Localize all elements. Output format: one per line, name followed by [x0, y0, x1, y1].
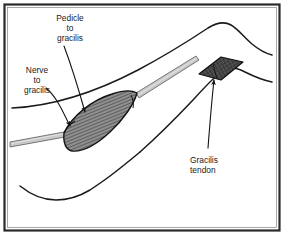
label-nerve-line2: to: [34, 75, 41, 85]
label-pedicle-line2: to: [67, 23, 74, 33]
label-tendon-line2: tendon: [190, 165, 216, 175]
label-pedicle-line3: gracilis: [57, 33, 83, 43]
label-pedicle-line1: Pedicle: [56, 13, 84, 23]
label-tendon-line1: Gracilis: [190, 155, 218, 165]
label-nerve-line3: gracilis: [24, 85, 50, 95]
label-gracilis-tendon: Gracilis tendon: [190, 155, 218, 175]
illustration-figure: Pedicle to gracilis Nerve to gracilis Gr…: [0, 0, 284, 235]
anatomical-illustration-canvas: Pedicle to gracilis Nerve to gracilis Gr…: [0, 0, 284, 235]
figure-background: [0, 0, 284, 235]
label-nerve-line1: Nerve: [26, 65, 49, 75]
